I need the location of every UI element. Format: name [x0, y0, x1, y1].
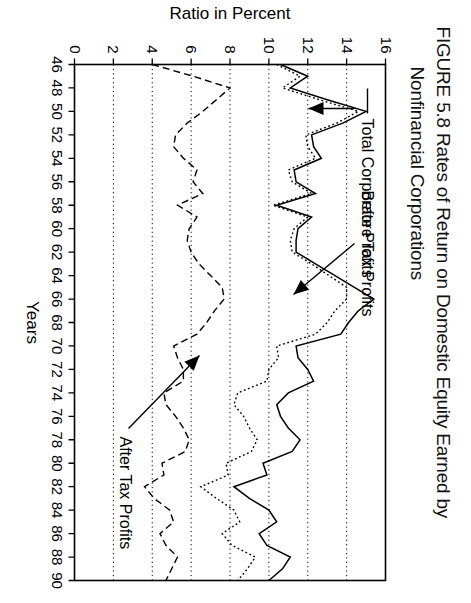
- svg-text:0: 0: [66, 45, 83, 53]
- svg-text:50: 50: [48, 103, 65, 120]
- svg-text:78: 78: [48, 431, 65, 448]
- series-line-total-corporate-profits: [233, 64, 373, 580]
- y-axis-label: Ratio in Percent: [169, 3, 290, 22]
- svg-text:12: 12: [299, 36, 316, 53]
- series-line-before-tax-profits: [200, 64, 358, 580]
- svg-text:8: 8: [222, 45, 239, 53]
- svg-text:66: 66: [48, 290, 65, 307]
- svg-text:88: 88: [48, 548, 65, 565]
- scanned-page-rotation-wrapper: FIGURE 5.8 Rates of Return on Domestic E…: [0, 0, 471, 603]
- svg-text:52: 52: [48, 126, 65, 143]
- svg-text:10: 10: [260, 36, 277, 53]
- x-axis-label: Years: [22, 301, 41, 344]
- svg-text:80: 80: [48, 454, 65, 471]
- svg-text:Before Tax Profits: Before Tax Profits: [358, 190, 375, 316]
- svg-text:58: 58: [48, 196, 65, 213]
- svg-text:6: 6: [183, 45, 200, 53]
- svg-text:4: 4: [144, 45, 161, 53]
- svg-text:90: 90: [48, 572, 65, 589]
- svg-text:46: 46: [48, 56, 65, 73]
- y-axis-tick-labels: 0246810121416: [66, 36, 394, 53]
- svg-text:After Tax Profits: After Tax Profits: [116, 436, 133, 549]
- svg-text:68: 68: [48, 314, 65, 331]
- svg-text:74: 74: [48, 384, 65, 401]
- svg-text:2: 2: [105, 45, 122, 53]
- x-axis-tick-labels: 4648505254565860626466687072747678808284…: [48, 56, 65, 589]
- line-chart: 4648505254565860626466687072747678808284…: [0, 0, 471, 603]
- svg-text:82: 82: [48, 478, 65, 495]
- series-annotations: Total Corporate ProfitsBefore Tax Profit…: [116, 88, 375, 549]
- svg-text:72: 72: [48, 361, 65, 378]
- svg-text:70: 70: [48, 337, 65, 354]
- svg-text:14: 14: [338, 36, 355, 53]
- svg-text:48: 48: [48, 79, 65, 96]
- series-line-after-tax-profits: [144, 64, 230, 580]
- y-gridlines: [113, 64, 346, 580]
- figure-page: FIGURE 5.8 Rates of Return on Domestic E…: [0, 0, 471, 603]
- svg-text:76: 76: [48, 407, 65, 424]
- x-axis-ticks: [68, 64, 74, 580]
- svg-text:54: 54: [48, 149, 65, 166]
- svg-text:84: 84: [48, 501, 65, 518]
- svg-text:62: 62: [48, 243, 65, 260]
- svg-text:56: 56: [48, 173, 65, 190]
- svg-text:86: 86: [48, 525, 65, 542]
- svg-text:16: 16: [377, 36, 394, 53]
- svg-text:60: 60: [48, 220, 65, 237]
- y-axis-ticks: [74, 58, 385, 64]
- svg-text:64: 64: [48, 267, 65, 284]
